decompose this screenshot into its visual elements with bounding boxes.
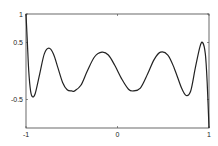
x-tick-label: 1	[207, 131, 211, 138]
line-chart: -10110.5-0.5	[0, 0, 218, 146]
y-tick-label: 1	[19, 11, 23, 18]
y-tick-label: -0.5	[11, 96, 23, 103]
y-tick-label: 0.5	[13, 39, 23, 46]
axis-ticks: -10110.5-0.5	[11, 11, 211, 139]
x-tick-label: 0	[116, 131, 120, 138]
x-tick-label: -1	[23, 131, 29, 138]
data-line	[26, 14, 209, 128]
